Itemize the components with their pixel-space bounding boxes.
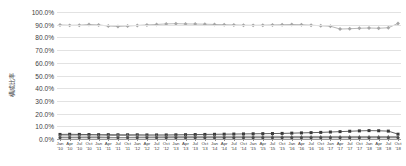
x-tick-year: '18	[387, 146, 406, 151]
data-point-marker	[357, 26, 361, 30]
data-point-marker	[329, 131, 332, 134]
y-axis-tick-label: 40.0%	[16, 85, 54, 92]
y-axis-tick-label: 10.0%	[16, 123, 54, 130]
series-line	[60, 135, 398, 136]
y-axis-tick-label: 30.0%	[16, 97, 54, 104]
data-point-marker	[281, 132, 284, 135]
data-point-marker	[386, 26, 390, 30]
data-point-marker	[348, 130, 351, 133]
data-point-marker	[368, 129, 371, 132]
x-axis-tick-label: Oct'18	[387, 141, 406, 151]
y-axis-tick-label: 80.0%	[16, 34, 54, 41]
data-point-marker	[367, 26, 371, 30]
gridline	[57, 114, 401, 115]
gridline	[57, 76, 401, 77]
gridline	[57, 63, 401, 64]
gridline	[57, 101, 401, 102]
y-axis-tick-label: 90.0%	[16, 21, 54, 28]
line-chart: 構成比率 100.0%90.0%80.0%70.0%60.0%50.0%40.0…	[0, 0, 406, 166]
data-point-marker	[300, 131, 303, 134]
data-point-marker	[310, 131, 313, 134]
series-1	[58, 21, 400, 30]
data-point-marker	[377, 129, 380, 132]
y-axis-tick-label: 100.0%	[16, 9, 54, 16]
data-point-marker	[339, 130, 342, 133]
gridline	[57, 12, 401, 13]
x-axis-tick-labels: Jan'10Apr'10Jul'10Oct'10Jan'11Apr'11Jul'…	[57, 141, 401, 166]
data-point-marker	[319, 131, 322, 134]
y-axis-tick-label: 60.0%	[16, 59, 54, 66]
data-point-marker	[338, 27, 342, 31]
gridline	[57, 50, 401, 51]
gridline	[57, 88, 401, 89]
y-axis-tick-label: 70.0%	[16, 47, 54, 54]
data-point-marker	[348, 27, 352, 31]
gridline	[57, 126, 401, 127]
data-point-marker	[387, 130, 390, 133]
gridline	[57, 25, 401, 26]
data-point-marker	[290, 132, 293, 135]
plot-area	[57, 12, 401, 139]
gridline	[57, 37, 401, 38]
data-point-marker	[358, 129, 361, 132]
series-line	[60, 131, 398, 135]
x-axis-tickmark	[398, 139, 399, 141]
y-axis-tick-label: 50.0%	[16, 72, 54, 79]
y-axis-tick-label: 20.0%	[16, 110, 54, 117]
data-point-marker	[377, 26, 381, 30]
